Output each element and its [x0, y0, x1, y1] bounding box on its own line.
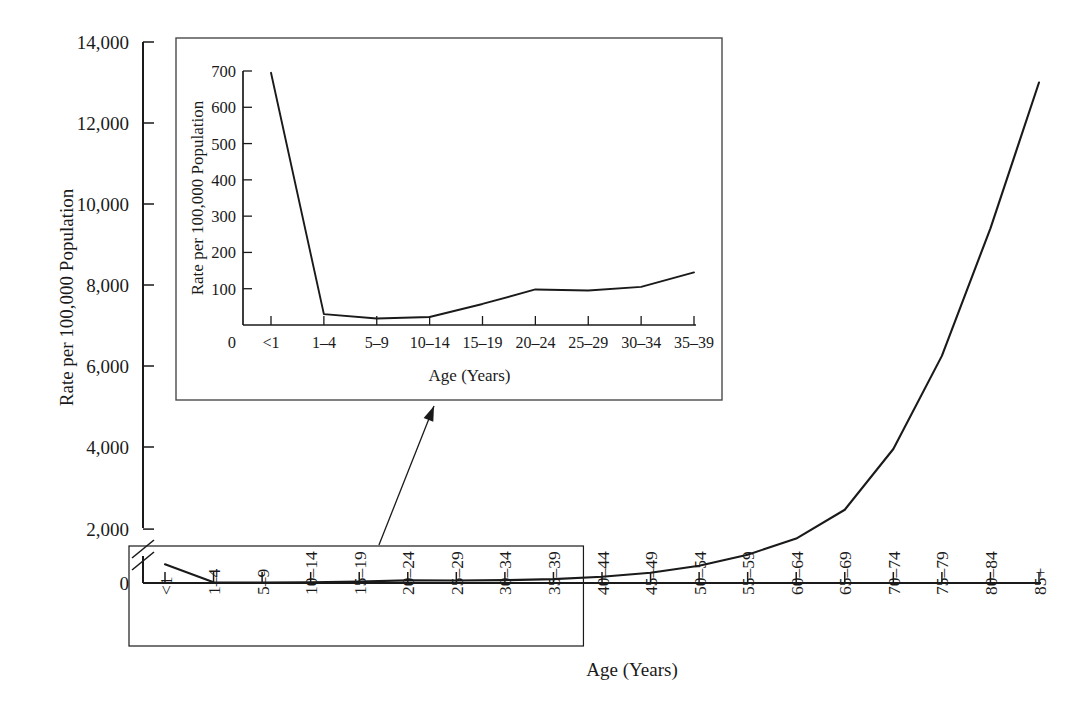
main-x-tick-label: 35–39 — [544, 551, 564, 595]
main-y-tick-label: 0 — [120, 573, 130, 594]
inset-y-tick-label: 400 — [211, 171, 236, 190]
inset-x-tick-label: 25–29 — [568, 334, 608, 351]
inset-y-tick-label: 500 — [211, 135, 236, 154]
inset-x-tick-label: 35–39 — [674, 334, 714, 351]
inset-y-axis-title: Rate per 100,000 Population — [188, 100, 207, 295]
chart-canvas: 02,0004,0006,0008,00010,00012,00014,000<… — [0, 0, 1069, 708]
inset-x-tick-label: 1–4 — [312, 334, 336, 351]
inset-x-tick-label: 20–24 — [515, 334, 555, 351]
main-y-tick-label: 6,000 — [86, 356, 129, 377]
main-y-tick-label: 10,000 — [77, 194, 129, 215]
main-x-tick-label: 10–14 — [301, 551, 321, 595]
main-x-tick-label: 25–29 — [447, 551, 467, 595]
main-y-axis-title: Rate per 100,000 Population — [56, 188, 77, 406]
inset-x-tick-label: 5–9 — [365, 334, 389, 351]
main-y-tick-label: 14,000 — [77, 32, 129, 53]
main-x-axis-title: Age (Years) — [586, 659, 677, 681]
main-x-tick-label: 15–19 — [350, 551, 370, 595]
main-x-tick-label: 20–24 — [398, 551, 418, 595]
inset-x-tick-label: 10–14 — [410, 334, 450, 351]
inset-x-axis-title: Age (Years) — [429, 366, 511, 385]
main-y-tick-label: 12,000 — [77, 113, 129, 134]
callout-arrow — [379, 406, 434, 545]
inset-y-tick-label: 100 — [211, 280, 236, 299]
main-y-tick-label: 2,000 — [86, 519, 129, 540]
main-x-tick-label: 60–64 — [787, 551, 807, 595]
main-y-tick-label: 4,000 — [86, 437, 129, 458]
main-x-tick-label: 55–59 — [738, 551, 758, 595]
main-x-tick-label: 40–44 — [593, 551, 613, 595]
main-y-tick-label: 8,000 — [86, 275, 129, 296]
main-x-tick-label: 80–84 — [981, 551, 1001, 595]
callout-arrowhead — [424, 406, 434, 422]
inset-y-tick-label: 700 — [211, 62, 236, 81]
inset-y-tick-label: 600 — [211, 98, 236, 117]
inset-x-tick-label: 30–34 — [621, 334, 661, 351]
chart-figure: 02,0004,0006,0008,00010,00012,00014,000<… — [0, 0, 1069, 708]
main-x-tick-label: 85+ — [1030, 568, 1050, 596]
main-x-tick-label: 70–74 — [884, 551, 904, 595]
inset-x-tick-label: 15–19 — [463, 334, 503, 351]
inset-y-tick-label: 200 — [211, 243, 236, 262]
main-x-tick-label: <1 — [156, 576, 176, 595]
main-x-tick-label: 30–34 — [495, 551, 515, 595]
main-x-tick-label: 75–79 — [932, 551, 952, 595]
inset-y-tick-label: 300 — [211, 207, 236, 226]
inset-x-tick-label: <1 — [262, 334, 279, 351]
inset-origin-label: 0 — [228, 333, 236, 352]
main-x-tick-label: 50–54 — [690, 551, 710, 595]
main-x-tick-label: 65–69 — [835, 551, 855, 595]
